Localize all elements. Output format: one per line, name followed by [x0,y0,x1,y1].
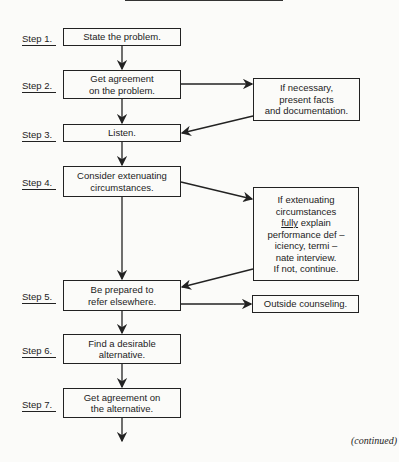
text-fragment: explain [298,217,331,228]
outside-counseling-box: Outside counseling. [252,295,359,313]
present-facts-box: If necessary, present facts and document… [253,78,360,121]
step-4-label: Step 4. [22,177,56,190]
step-1-box: State the problem. [63,28,181,46]
text-line: If not, continue. [254,263,358,275]
step-6-box: Find a desirable alternative. [63,334,181,364]
continued-note: (continued) [351,435,397,446]
extenuating-outcome-box: If extenuating circumstances fully expla… [253,187,359,281]
text-line: fully explain [254,217,358,229]
step-7-box: Get agreement on the alternative. [63,388,181,418]
emphasis-fully: fully [281,217,298,228]
text-line: performance def – [254,229,358,241]
step-5-box: Be prepared to refer elsewhere. [63,280,181,311]
step-6-label: Step 6. [22,345,56,358]
text-line: nate interview. [254,252,358,264]
text-line: If extenuating [254,194,358,206]
step-2-box: Get agreement on the problem. [63,70,181,99]
text-line: circumstances [254,206,358,218]
step-1-label: Step 1. [22,33,56,46]
step-3-box: Listen. [63,124,181,142]
step-2-label: Step 2. [22,80,56,93]
step-4-box: Consider extenuating circumstances. [63,166,181,197]
step-5-label: Step 5. [22,291,56,304]
step-7-label: Step 7. [22,399,56,412]
step-3-label: Step 3. [22,129,56,142]
text-line: iciency, termi – [254,240,358,252]
